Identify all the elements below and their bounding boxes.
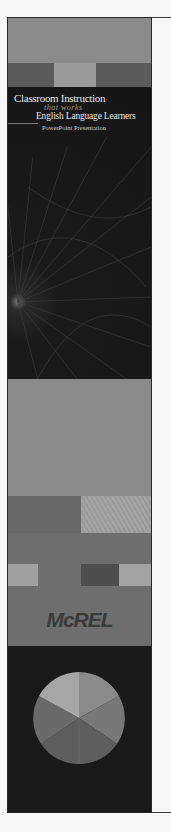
top-gray-band <box>8 18 151 63</box>
dark-block-center <box>81 564 119 586</box>
logo-band: McREL <box>8 533 151 646</box>
light-block-right <box>119 564 151 586</box>
color-block-band <box>8 63 151 87</box>
book-cover: Classroom Instruction that works English… <box>7 17 152 813</box>
middle-gray-band <box>8 379 151 496</box>
mcrel-logo: McREL <box>8 608 151 632</box>
light-block-left <box>8 564 38 586</box>
title-line-3: English Language Learners <box>36 112 135 122</box>
title-block: Classroom Instruction that works English… <box>8 87 151 379</box>
split-band <box>8 496 151 533</box>
cover-subtitle: PowerPoint Presentation <box>42 125 135 132</box>
pie-graphic <box>33 672 125 764</box>
hatched-block <box>81 496 151 533</box>
cover-title: Classroom Instruction that works English… <box>14 93 135 131</box>
frame-bottom-rule <box>152 812 171 813</box>
light-block <box>54 63 96 87</box>
pie-band <box>8 646 151 813</box>
